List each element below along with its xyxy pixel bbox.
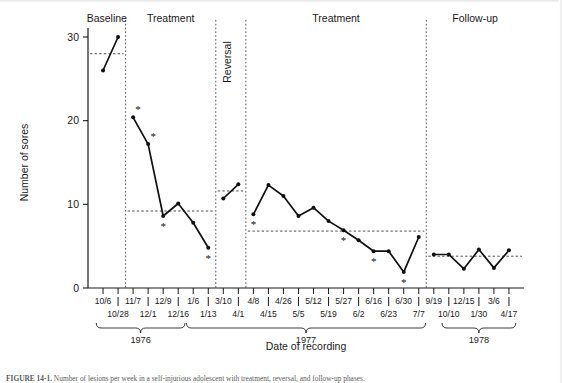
x-label-row2-4-17: 4/17 bbox=[501, 309, 518, 319]
year-label-1976: 1976 bbox=[130, 335, 150, 345]
year-bracket-1978 bbox=[442, 323, 516, 333]
x-label-row2-10-28: 10/28 bbox=[107, 309, 129, 319]
data-point-4-1 bbox=[236, 182, 240, 186]
phase-label-treatment-2: Treatment bbox=[147, 12, 195, 24]
data-point-1-13 bbox=[206, 246, 210, 250]
asterisk-11-7: * bbox=[135, 103, 141, 115]
data-series bbox=[101, 35, 511, 274]
x-label-row1-10-6: 10/6 bbox=[95, 296, 112, 306]
data-point-3-10 bbox=[221, 196, 225, 200]
data-point-10-6 bbox=[101, 68, 105, 72]
asterisk-5-27: * bbox=[341, 234, 347, 246]
year-bracket-1976 bbox=[96, 323, 185, 333]
data-point-10-28 bbox=[116, 35, 120, 39]
data-line-segment-4 bbox=[253, 185, 418, 272]
phase-labels: BaselineTreatmentReversalTreatmentFollow… bbox=[87, 12, 498, 83]
x-label-row1-5-27: 5/27 bbox=[335, 296, 352, 306]
data-point-11-7 bbox=[131, 115, 135, 119]
asterisk-6-16: * bbox=[371, 255, 377, 267]
x-label-row2-12-16: 12/16 bbox=[167, 309, 189, 319]
x-label-row2-12-1: 12/1 bbox=[140, 309, 157, 319]
data-point-12-9 bbox=[161, 214, 165, 218]
data-line-segment-2 bbox=[133, 117, 208, 248]
figure-caption-number: FIGURE 14-1. bbox=[6, 374, 52, 383]
data-point-5-27 bbox=[342, 228, 346, 232]
asterisk-12-1: * bbox=[150, 130, 156, 142]
phase-label-baseline-1: Baseline bbox=[87, 12, 127, 24]
data-point-4-17 bbox=[507, 248, 511, 252]
asterisk-1-13: * bbox=[206, 252, 212, 264]
x-axis-ticks bbox=[103, 288, 509, 294]
x-axis-title: Date of recording bbox=[266, 340, 347, 352]
x-label-row2-1-13: 1/13 bbox=[200, 309, 217, 319]
y-tick-label-30: 30 bbox=[67, 31, 79, 43]
asterisk-12-9: * bbox=[160, 220, 166, 232]
data-point-12-16 bbox=[176, 201, 180, 205]
x-label-row1-4-8: 4/8 bbox=[247, 296, 259, 306]
x-label-row1-11-7: 11/7 bbox=[125, 296, 141, 306]
data-line-segment-5 bbox=[434, 250, 509, 269]
data-point-12-15 bbox=[462, 267, 466, 271]
x-label-row2-7-7: 7/7 bbox=[413, 309, 425, 319]
data-point-10-10 bbox=[447, 253, 451, 257]
data-point-5-19 bbox=[327, 219, 331, 223]
phase-mean-lines bbox=[90, 54, 522, 256]
x-label-row1-9-19: 9/19 bbox=[425, 296, 442, 306]
data-point-6-2 bbox=[357, 238, 361, 242]
year-label-1978: 1978 bbox=[469, 335, 489, 345]
x-axis-tick-labels: 10/611/712/91/63/104/84/265/125/276/166/… bbox=[95, 296, 518, 319]
figure-container: 0102030 ******** BaselineTreatmentRevers… bbox=[0, 0, 562, 383]
x-label-row2-5-19: 5/19 bbox=[320, 309, 337, 319]
data-point-4-15 bbox=[266, 183, 270, 187]
figure-caption: FIGURE 14-1. Number of lesions per week … bbox=[6, 374, 558, 383]
data-point-1-6 bbox=[191, 221, 195, 225]
data-point-1-30 bbox=[477, 248, 481, 252]
page-top-edge bbox=[0, 0, 562, 3]
x-label-row2-4-15: 4/15 bbox=[260, 309, 277, 319]
data-point-3-6 bbox=[492, 266, 496, 270]
asterisk-4-8: * bbox=[251, 218, 257, 230]
data-point-7-7 bbox=[417, 235, 421, 239]
y-tick-label-10: 10 bbox=[67, 198, 79, 210]
year-bracket-1977 bbox=[186, 323, 425, 333]
x-label-row1-1-6: 1/6 bbox=[187, 296, 199, 306]
data-point-4-8 bbox=[251, 212, 255, 216]
phase-label-treatment-4: Treatment bbox=[312, 12, 360, 24]
phase-divider-lines bbox=[126, 20, 427, 288]
data-point-4-26 bbox=[281, 194, 285, 198]
phase-label-follow-up-5: Follow-up bbox=[452, 12, 498, 24]
y-tick-label-20: 20 bbox=[67, 114, 79, 126]
x-label-row2-1-30: 1/30 bbox=[471, 309, 488, 319]
data-point-6-16 bbox=[372, 249, 376, 253]
x-label-row1-12-15: 12/15 bbox=[453, 296, 475, 306]
x-label-row1-4-26: 4/26 bbox=[275, 296, 292, 306]
x-label-row2-6-2: 6/2 bbox=[353, 309, 365, 319]
data-point-9-19 bbox=[432, 253, 436, 257]
figure-caption-text: Number of lesions per week in a self-inj… bbox=[52, 374, 365, 383]
asterisk-6-30: * bbox=[401, 276, 407, 288]
x-label-row1-5-12: 5/12 bbox=[305, 296, 322, 306]
phase-label-reversal: Reversal bbox=[221, 41, 233, 82]
x-label-row1-12-9: 12/9 bbox=[155, 296, 172, 306]
x-label-row1-6-16: 6/16 bbox=[365, 296, 382, 306]
y-tick-label-0: 0 bbox=[73, 282, 79, 294]
y-axis-title: Number of sores bbox=[18, 124, 30, 202]
x-label-row1-6-30: 6/30 bbox=[395, 296, 412, 306]
data-point-12-1 bbox=[146, 142, 150, 146]
asterisk-annotations: ******** bbox=[135, 103, 406, 288]
x-label-row2-10-10: 10/10 bbox=[438, 309, 460, 319]
data-point-5-12 bbox=[312, 206, 316, 210]
data-line-segment-3 bbox=[223, 184, 238, 198]
x-label-row2-4-1: 4/1 bbox=[232, 309, 244, 319]
sores-line-chart: 0102030 ******** BaselineTreatmentRevers… bbox=[0, 0, 562, 370]
data-point-6-23 bbox=[387, 249, 391, 253]
x-label-row1-3-6: 3/6 bbox=[488, 296, 500, 306]
data-point-5-5 bbox=[296, 214, 300, 218]
y-axis-ticks: 0102030 bbox=[67, 31, 88, 294]
x-label-row2-6-23: 6/23 bbox=[380, 309, 397, 319]
chart-axes bbox=[88, 28, 524, 288]
data-point-6-30 bbox=[402, 270, 406, 274]
x-label-row1-3-10: 3/10 bbox=[215, 296, 232, 306]
x-label-row2-5-5: 5/5 bbox=[293, 309, 305, 319]
